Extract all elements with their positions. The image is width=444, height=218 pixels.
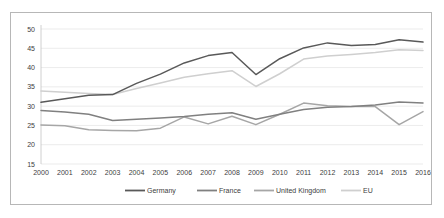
y-tick-label: 30 [27,103,35,110]
y-tick-label: 35 [27,83,35,90]
x-tick-label: 2016 [415,169,431,176]
y-tick-label: 25 [27,122,35,129]
x-tick-label: 2012 [320,169,336,176]
x-tick-label: 2009 [248,169,264,176]
chart-frame: 1520253035404550 20002001200220032004200… [10,12,432,205]
series-lines [41,40,423,131]
x-tick-label: 2015 [391,169,407,176]
chart-legend: GermanyFranceUnited KingdomEU [125,187,373,195]
y-tick-label: 15 [27,161,35,168]
y-tick-label: 20 [27,141,35,148]
x-tick-label: 2013 [344,169,360,176]
x-tick-label: 2000 [33,169,49,176]
x-axis-tick-labels: 2000200120022003200420052006200720082009… [33,169,431,176]
x-tick-label: 2007 [200,169,216,176]
x-tick-label: 2014 [367,169,383,176]
line-chart: 1520253035404550 20002001200220032004200… [11,13,431,204]
x-tick-label: 2004 [129,169,145,176]
x-tick-label: 2010 [272,169,288,176]
x-tick-label: 2002 [81,169,97,176]
series-line-france [41,102,423,121]
legend-label-france: France [219,187,241,194]
y-axis-tick-labels: 1520253035404550 [27,26,35,168]
x-tick-label: 2001 [57,169,73,176]
legend-label-germany: Germany [147,187,176,195]
series-line-eu [41,50,423,95]
y-tick-label: 45 [27,45,35,52]
y-tick-label: 40 [27,64,35,71]
x-tick-label: 2008 [224,169,240,176]
x-tick-label: 2003 [105,169,121,176]
x-tick-label: 2005 [153,169,169,176]
x-tick-label: 2011 [296,169,311,176]
legend-label-eu: EU [363,187,373,194]
y-tick-label: 50 [27,26,35,33]
x-tick-label: 2006 [176,169,192,176]
legend-label-united-kingdom: United Kingdom [276,187,326,195]
